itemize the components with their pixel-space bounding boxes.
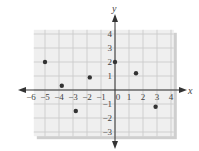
y-axis-label: y <box>111 3 117 14</box>
data-point <box>74 109 78 113</box>
y-tick-label: 4 <box>108 29 113 39</box>
y-tick-label: 1 <box>108 71 113 81</box>
data-point <box>113 60 117 64</box>
data-point <box>43 60 47 64</box>
x-tick-label: 3 <box>155 92 160 102</box>
x-tick-label: −5 <box>40 92 50 102</box>
x-axis-label: x <box>187 85 193 96</box>
x-tick-label: 2 <box>141 92 146 102</box>
y-tick-label: −2 <box>102 113 112 123</box>
x-tick-label: −6 <box>26 92 36 102</box>
y-tick-label: 2 <box>108 57 113 67</box>
x-tick-label: 1 <box>127 92 132 102</box>
data-point <box>134 71 138 75</box>
arrow-right-icon <box>179 87 187 93</box>
arrow-down-icon <box>112 141 118 149</box>
arrow-left-icon <box>18 87 26 93</box>
arrow-up-icon <box>112 14 118 22</box>
x-tick-label: −3 <box>68 92 78 102</box>
x-tick-label: 4 <box>169 92 174 102</box>
y-tick-label: −1 <box>102 99 112 109</box>
x-tick-label: −4 <box>54 92 64 102</box>
data-point <box>60 84 64 88</box>
data-point <box>88 75 92 79</box>
y-tick-label: 3 <box>108 43 113 53</box>
data-point <box>153 105 157 109</box>
y-tick-label: −3 <box>102 127 112 137</box>
coordinate-plane: −6−5−4−3−2−101234−3−2−11234 x y <box>0 0 199 151</box>
x-tick-label: −2 <box>82 92 92 102</box>
x-tick-label: 0 <box>116 92 121 102</box>
